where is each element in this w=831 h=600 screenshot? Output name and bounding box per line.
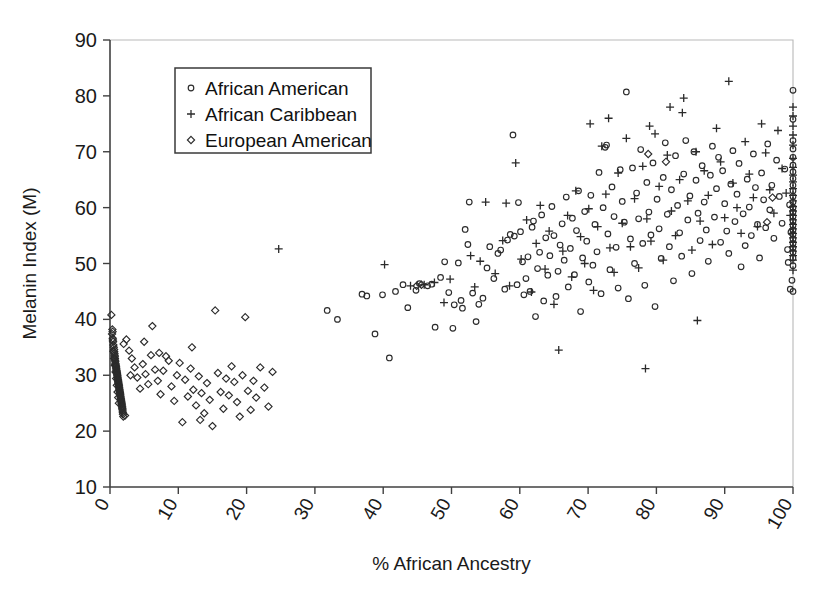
marker-diamond [242, 314, 249, 321]
marker-circle [642, 282, 648, 288]
marker-circle [335, 317, 341, 323]
marker-circle [712, 214, 718, 220]
marker-plus [602, 190, 610, 198]
x-tick-label: 20 [221, 495, 250, 524]
marker-diamond [182, 376, 189, 383]
marker-circle [584, 238, 590, 244]
marker-plus [618, 219, 626, 227]
marker-diamond [244, 387, 251, 394]
marker-plus [717, 158, 725, 166]
marker-circle [596, 170, 602, 176]
marker-circle [708, 172, 714, 178]
marker-diamond [147, 352, 154, 359]
marker-circle [529, 224, 535, 230]
marker-plus [688, 246, 696, 254]
marker-plus [614, 169, 622, 177]
marker-plus [381, 261, 389, 269]
marker-circle [746, 204, 752, 210]
marker-circle [570, 215, 576, 221]
marker-diamond [225, 392, 232, 399]
marker-circle [771, 236, 777, 242]
marker-circle [460, 305, 466, 311]
marker-circle [551, 233, 557, 239]
marker-circle [730, 148, 736, 154]
marker-plus [646, 122, 654, 130]
marker-circle [456, 260, 462, 266]
marker-circle [673, 153, 679, 159]
marker-circle [470, 290, 476, 296]
marker-plus [680, 94, 688, 102]
marker-circle [626, 296, 632, 302]
marker-circle [779, 220, 785, 226]
marker-plus [651, 130, 659, 138]
marker-diamond [108, 311, 115, 318]
y-axis-title: Melanin Index (M) [19, 187, 40, 339]
marker-circle [681, 171, 687, 177]
marker-circle [765, 141, 771, 147]
marker-circle [636, 216, 642, 222]
marker-plus [789, 103, 797, 111]
marker-diamond [127, 372, 134, 379]
marker-circle [568, 246, 574, 252]
marker-plus [667, 207, 675, 215]
marker-circle [611, 214, 617, 220]
marker-diamond [120, 340, 127, 347]
marker-circle [751, 151, 757, 157]
marker-circle [667, 244, 673, 250]
marker-circle [720, 168, 726, 174]
marker-plus [789, 122, 797, 130]
marker-circle [565, 284, 571, 290]
y-tick-label: 80 [75, 85, 97, 107]
marker-diamond [250, 377, 257, 384]
marker-plus [550, 300, 558, 308]
marker-diamond [168, 383, 175, 390]
marker-plus [555, 346, 563, 354]
marker-circle [736, 161, 742, 167]
marker-plus [704, 191, 712, 199]
marker-circle [324, 308, 330, 314]
marker-circle [624, 89, 630, 95]
x-tick-label: 80 [631, 495, 660, 524]
marker-circle [640, 241, 646, 247]
marker-diamond [198, 390, 205, 397]
marker-circle [654, 196, 660, 202]
marker-diamond [171, 397, 178, 404]
marker-circle [487, 244, 493, 250]
marker-circle [767, 207, 773, 213]
marker-circle [514, 282, 520, 288]
marker-circle [646, 209, 652, 215]
marker-circle [613, 244, 619, 250]
marker-plus [678, 109, 686, 117]
marker-circle [438, 275, 444, 281]
x-tick-label: 70 [563, 495, 592, 524]
marker-plus [594, 223, 602, 231]
marker-circle [644, 180, 650, 186]
marker-plus [774, 127, 782, 135]
marker-plus [467, 252, 475, 260]
marker-circle [683, 138, 689, 144]
marker-circle [535, 266, 541, 272]
marker-diamond [247, 406, 254, 413]
marker-circle [533, 314, 539, 320]
marker-plus [590, 286, 598, 294]
marker-circle [590, 262, 596, 268]
marker-circle [706, 258, 712, 264]
x-tick-label: 40 [358, 495, 387, 524]
marker-diamond [212, 307, 219, 314]
marker-plus [606, 244, 614, 252]
marker-plus [626, 243, 634, 251]
marker-plus [666, 103, 674, 111]
x-tick-label: 60 [495, 495, 524, 524]
marker-plus [532, 239, 540, 247]
marker-plus [766, 186, 774, 194]
marker-diamond [209, 422, 216, 429]
marker-circle [697, 238, 703, 244]
marker-diamond [160, 367, 167, 374]
marker-circle [656, 226, 662, 232]
marker-circle [605, 231, 611, 237]
marker-diamond [154, 377, 161, 384]
marker-diamond [769, 194, 776, 201]
marker-plus [440, 299, 448, 307]
marker-diamond [203, 379, 210, 386]
marker-plus [672, 232, 680, 240]
